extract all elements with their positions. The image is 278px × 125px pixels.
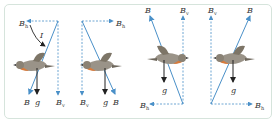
label-bv: Bv [55, 98, 65, 108]
svg-text:Bv: Bv [79, 98, 89, 108]
svg-text:Bh: Bh [115, 19, 126, 29]
bird-illustration [13, 53, 55, 71]
svg-text:Bh: Bh [139, 101, 150, 111]
svg-text:Bv: Bv [179, 6, 189, 16]
svg-text:B: B [246, 6, 253, 15]
panel-2: Bh Bv g B [79, 19, 126, 108]
svg-text:g: g [231, 86, 236, 95]
panel-1: Bh I B g Bv [13, 19, 65, 108]
svg-text:B: B [112, 98, 119, 107]
label-angle-i: I [39, 31, 44, 40]
panel-3: B Bv g Bh [139, 6, 189, 111]
label-b: B [23, 98, 30, 107]
svg-text:g: g [103, 98, 108, 107]
svg-text:g: g [162, 86, 167, 95]
svg-text:B: B [144, 6, 151, 15]
panel-4: Bv B g Bh [207, 6, 265, 111]
label-g: g [35, 98, 40, 107]
label-bh: Bh [18, 19, 29, 29]
svg-text:Bv: Bv [207, 6, 217, 16]
diagram-canvas: Bh I B g Bv Bh Bv g B B Bv g Bh Bv B [0, 0, 278, 125]
b-field-vector [29, 21, 58, 94]
svg-text:Bh: Bh [254, 101, 265, 111]
